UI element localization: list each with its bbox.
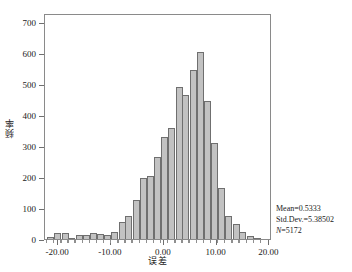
x-axis-minor-tick (167, 240, 168, 243)
stat-n: N=5172 (276, 225, 334, 236)
x-axis-minor-tick (139, 240, 140, 243)
x-axis-minor-tick (124, 240, 125, 243)
histogram-bar (211, 143, 218, 239)
x-axis-minor-tick (253, 240, 254, 243)
histogram-chart: 频率 0100200300400500600700 -20.00-10.000.… (0, 0, 352, 272)
histogram-bar (168, 128, 175, 239)
y-axis-tick-label: 300 (23, 143, 37, 152)
plot-area (44, 14, 271, 240)
histogram-bar (111, 232, 118, 239)
x-axis-minor-tick (118, 240, 119, 243)
histogram-bar (239, 232, 246, 239)
x-axis-minor-tick (132, 240, 133, 243)
x-axis-minor-tick (153, 240, 154, 243)
histogram-bar (154, 157, 161, 239)
stat-mean-value: 0.5333 (299, 204, 321, 213)
x-axis-minor-tick (103, 240, 104, 243)
y-axis-tick-label: 100 (23, 205, 37, 214)
y-axis-tick-label: 600 (23, 50, 37, 59)
histogram-bar (182, 95, 189, 239)
x-axis-minor-tick (82, 240, 83, 243)
x-axis-minor-tick (260, 240, 261, 243)
stat-stddev: Std.Dev.=5.38502 (276, 214, 334, 225)
x-axis-tick-mark (163, 240, 164, 245)
x-axis-minor-tick (238, 240, 239, 243)
bars-layer (45, 15, 270, 239)
histogram-bar (254, 238, 261, 239)
stat-mean: Mean=0.5333 (276, 203, 334, 214)
x-axis-minor-tick (61, 240, 62, 243)
x-axis-minor-tick (210, 240, 211, 243)
y-axis-tick-label: 500 (23, 81, 37, 90)
x-axis-minor-tick (89, 240, 90, 243)
x-axis-minor-tick (160, 240, 161, 243)
x-axis-minor-tick (110, 240, 111, 243)
x-axis-minor-tick (146, 240, 147, 243)
x-axis-minor-tick (75, 240, 76, 243)
x-axis-minor-tick (175, 240, 176, 243)
stat-stddev-value: 5.38502 (308, 215, 334, 224)
x-axis-minor-tick (203, 240, 204, 243)
x-axis-title: 误差 (0, 256, 316, 266)
histogram-bar (140, 178, 147, 239)
x-axis-minor-tick (196, 240, 197, 243)
y-axis-tick-label: 700 (23, 19, 37, 28)
histogram-bar (197, 52, 204, 239)
x-axis-tick-mark (57, 240, 58, 245)
stat-stddev-label: Std.Dev.= (276, 215, 308, 224)
x-axis-minor-tick (46, 240, 47, 243)
histogram-bar (83, 235, 90, 239)
x-axis-minor-tick (232, 240, 233, 243)
x-axis-minor-tick (96, 240, 97, 243)
histogram-bar (125, 216, 132, 239)
histogram-bar (54, 233, 61, 239)
histogram-bar (68, 238, 75, 239)
x-axis-minor-tick (189, 240, 190, 243)
stat-mean-label: Mean= (276, 204, 299, 213)
y-axis-tick-label: 400 (23, 112, 37, 121)
x-axis-tick-mark (268, 240, 269, 245)
histogram-bar (225, 216, 232, 239)
x-axis-minor-tick (53, 240, 54, 243)
x-axis-minor-tick (217, 240, 218, 243)
x-axis-minor-tick (67, 240, 68, 243)
statistics-annotation: Mean=0.5333 Std.Dev.=5.38502 N=5172 (276, 203, 334, 236)
x-axis-minor-tick (246, 240, 247, 243)
x-axis-minor-tick (224, 240, 225, 243)
stat-n-value: =5172 (281, 226, 302, 235)
x-axis-minor-tick (181, 240, 182, 243)
y-axis-tick-label: 200 (23, 174, 37, 183)
histogram-bar (97, 234, 104, 239)
y-axis: 0100200300400500600700 (0, 0, 44, 272)
